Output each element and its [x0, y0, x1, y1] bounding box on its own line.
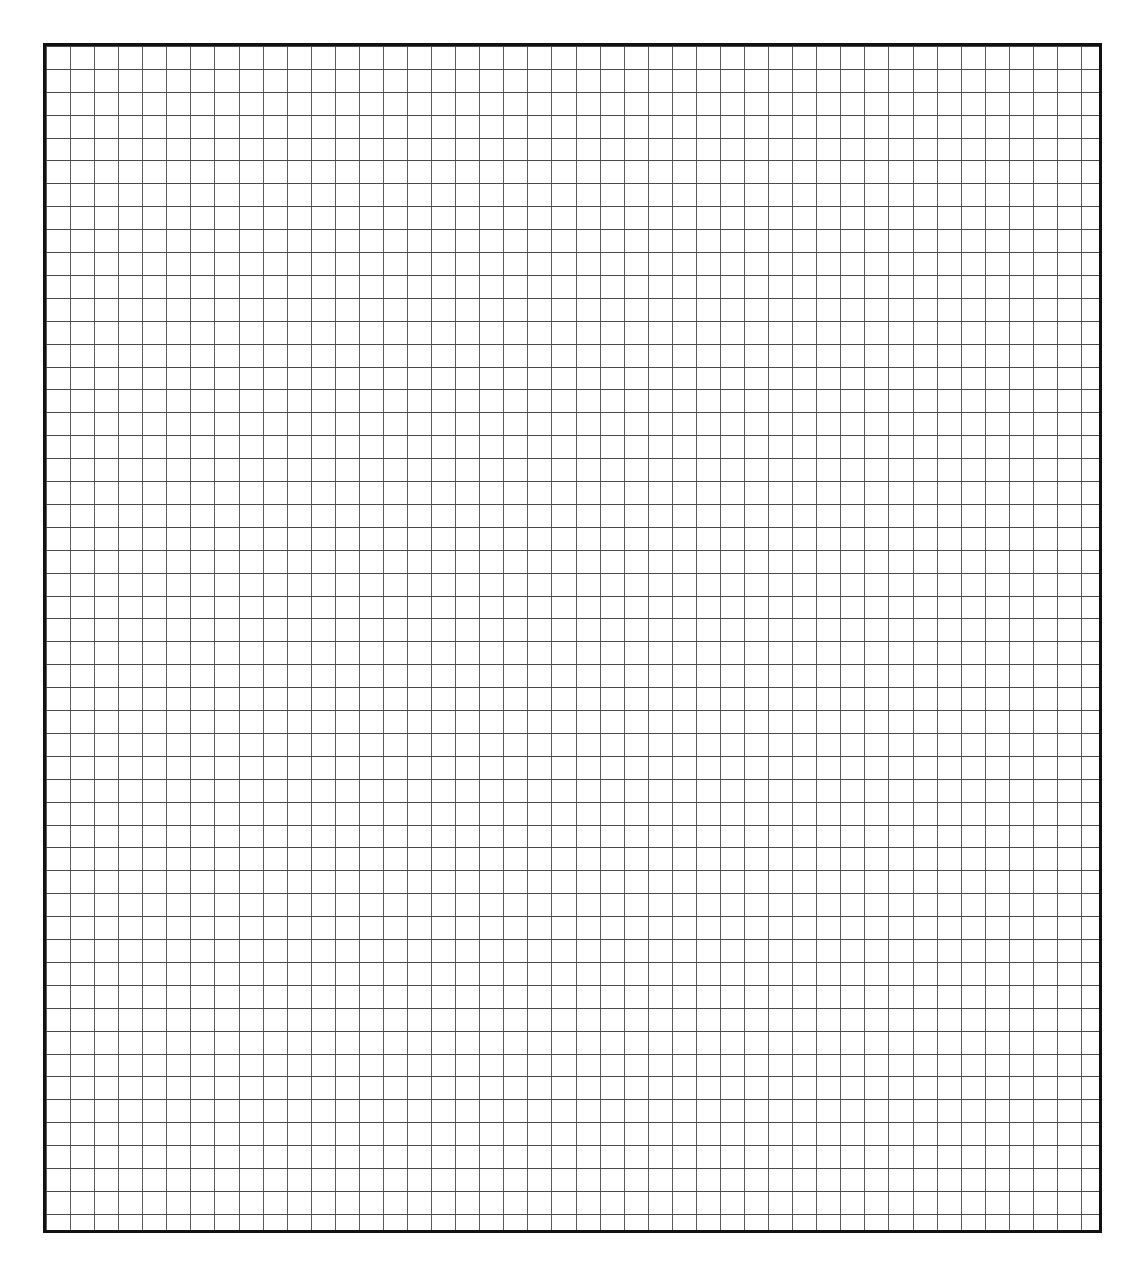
paper-sheet: Blank Grid Paper Sheet Plain square-rule… [0, 0, 1144, 1283]
margin-bottom [0, 1233, 1144, 1283]
margin-left [0, 0, 43, 1283]
margin-top [0, 0, 1144, 43]
document-title: Blank Grid Paper Sheet [0, 0, 1, 1]
grid-frame [43, 43, 1102, 1233]
margin-right [1102, 0, 1144, 1283]
annotations-text-status: none [0, 0, 1, 1]
document-description: Plain square-ruled graph paper with a he… [0, 0, 1, 1]
grid-surface [46, 46, 1099, 1230]
